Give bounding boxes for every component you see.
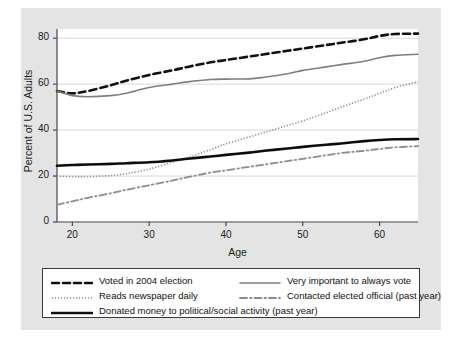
series-lines: [57, 34, 418, 205]
x-axis-title: Age: [57, 246, 418, 258]
y-tick-label: 0: [19, 215, 49, 226]
legend-key-icon: [51, 305, 93, 317]
y-axis-title: Percent of U.S. Adults: [22, 31, 34, 211]
gridlines: [57, 38, 418, 222]
chart-legend: Voted in 2004 electionVery important to …: [42, 268, 420, 318]
legend-item: Reads newspaper daily: [51, 289, 198, 303]
legend-key-icon: [239, 275, 281, 287]
legend-item: Donated money to political/social activi…: [51, 304, 318, 318]
legend-key-icon: [239, 290, 281, 302]
legend-key-icon: [51, 290, 93, 302]
legend-item: Very important to always vote: [239, 274, 411, 288]
legend-item: Contacted elected official (past year): [239, 289, 441, 303]
legend-label: Contacted elected official (past year): [287, 290, 441, 302]
x-tick-label: 50: [283, 229, 323, 240]
chart-figure: 020406080 2030405060 Percent of U.S. Adu…: [0, 0, 462, 343]
series-line-5: [57, 139, 418, 166]
legend-label: Very important to always vote: [287, 275, 411, 287]
legend-key-icon: [51, 275, 93, 287]
legend-label: Donated money to political/social activi…: [99, 305, 318, 317]
x-tick-label: 60: [360, 229, 400, 240]
legend-label: Reads newspaper daily: [99, 290, 198, 302]
series-line-2: [57, 54, 418, 97]
x-tick-label: 40: [206, 229, 246, 240]
legend-item: Voted in 2004 election: [51, 274, 193, 288]
x-tick-label: 30: [129, 229, 169, 240]
x-tick-label: 20: [52, 229, 92, 240]
legend-label: Voted in 2004 election: [99, 275, 193, 287]
